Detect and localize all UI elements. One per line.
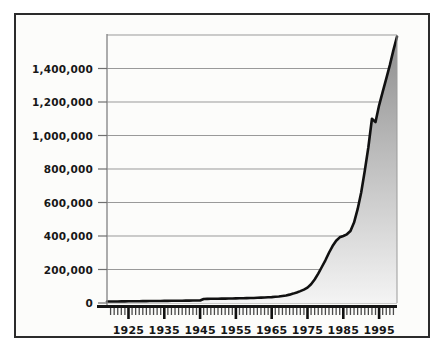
x-axis-labels-group: 19251935194519551965197519851995: [113, 324, 395, 336]
area-fill-group: [107, 37, 397, 303]
chart-figure: 0200,000400,000600,000800,0001,000,0001,…: [0, 0, 444, 348]
x-axis-tick-label: 1925: [113, 324, 144, 336]
y-axis-tick-label: 0: [85, 297, 93, 309]
x-axis-tick-label: 1995: [363, 324, 394, 336]
y-axis-tick-label: 1,400,000: [32, 63, 93, 75]
x-axis-tick-label: 1975: [292, 324, 323, 336]
x-axis-ticks-group: [111, 308, 394, 319]
y-axis-tick-label: 600,000: [44, 197, 93, 209]
x-axis-tick-label: 1965: [256, 324, 287, 336]
x-axis-tick-label: 1935: [149, 324, 180, 336]
y-axis-tick-label: 800,000: [44, 163, 93, 175]
y-axis-tick-label: 1,000,000: [32, 130, 93, 142]
y-axis-ticks-group: [98, 69, 107, 304]
x-axis-tick-label: 1955: [220, 324, 251, 336]
chart-frame: 0200,000400,000600,000800,0001,000,0001,…: [14, 13, 430, 338]
chart-plot-svg: 0200,000400,000600,000800,0001,000,0001,…: [16, 15, 428, 336]
area-fill-path: [107, 37, 397, 303]
x-axis-tick-label: 1945: [184, 324, 215, 336]
y-axis-tick-label: 400,000: [44, 230, 93, 242]
y-axis-tick-label: 1,200,000: [32, 96, 93, 108]
y-axis-tick-label: 200,000: [44, 264, 93, 276]
y-axis-labels-group: 0200,000400,000600,000800,0001,000,0001,…: [32, 63, 93, 310]
x-axis-tick-label: 1985: [328, 324, 359, 336]
